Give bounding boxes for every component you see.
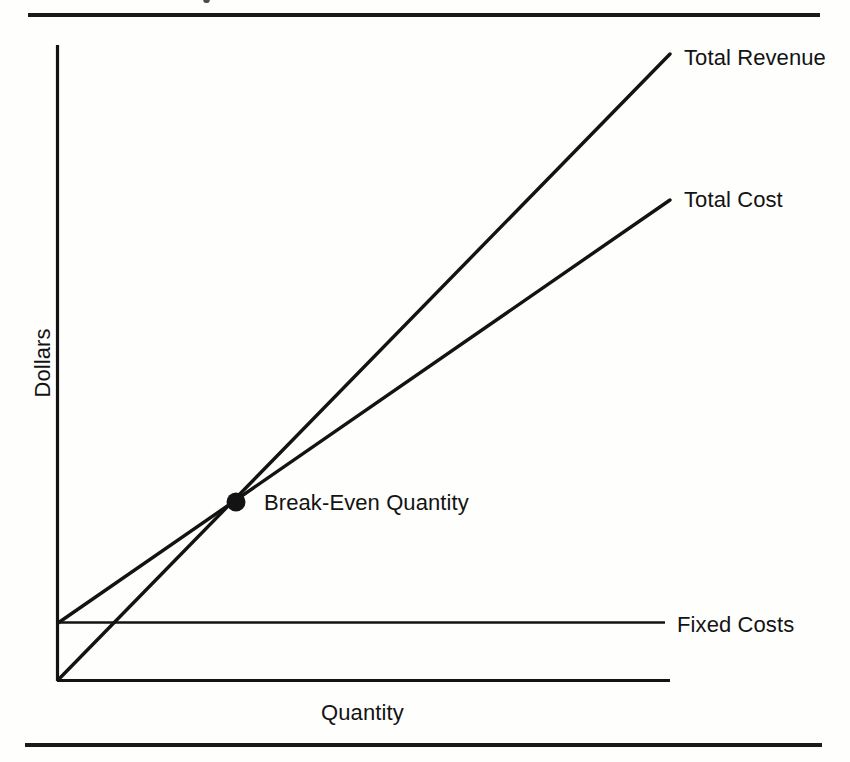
- series-label-fixed-costs: Fixed Costs: [677, 614, 794, 636]
- break-even-point-marker: [227, 493, 246, 512]
- break-even-chart: [0, 0, 850, 762]
- chart-page: Total Revenue Total Cost Break-Even Quan…: [0, 0, 850, 762]
- series-label-total-cost: Total Cost: [684, 189, 783, 211]
- total-cost-line: [58, 200, 670, 623]
- total-revenue-line: [58, 54, 670, 680]
- x-axis-label: Quantity: [321, 702, 404, 724]
- annotation-label-break-even-quantity: Break-Even Quantity: [264, 492, 469, 514]
- series-label-total-revenue: Total Revenue: [684, 47, 826, 69]
- y-axis-label: Dollars: [32, 308, 54, 418]
